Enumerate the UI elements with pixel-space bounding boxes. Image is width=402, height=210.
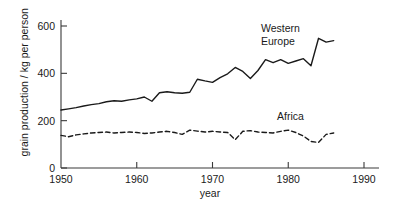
series-line-africa (61, 130, 334, 142)
x-axis-tick-label: 1990 (339, 174, 389, 185)
y-axis-tick-label: 400 (11, 68, 55, 79)
chart-series-group (61, 38, 334, 142)
y-axis-tick-label: 600 (11, 21, 55, 32)
x-axis-tick-label: 1960 (112, 174, 162, 185)
y-axis-tick-label: 0 (11, 163, 55, 174)
x-axis-tick-label: 1970 (188, 174, 238, 185)
series-label-western-europe: Western Europe (261, 22, 300, 47)
y-axis-ticks (61, 26, 67, 168)
y-axis-tick-label: 200 (11, 116, 55, 127)
chart-axes (61, 20, 379, 168)
x-axis-tick-label: 1950 (36, 174, 86, 185)
series-label-africa: Africa (277, 110, 304, 123)
chart-figure: grain production / kg per person year We… (0, 0, 402, 210)
series-line-western-europe (61, 38, 334, 110)
x-axis-tick-label: 1980 (263, 174, 313, 185)
x-axis-label: year (150, 188, 270, 199)
x-axis-ticks (137, 162, 364, 168)
